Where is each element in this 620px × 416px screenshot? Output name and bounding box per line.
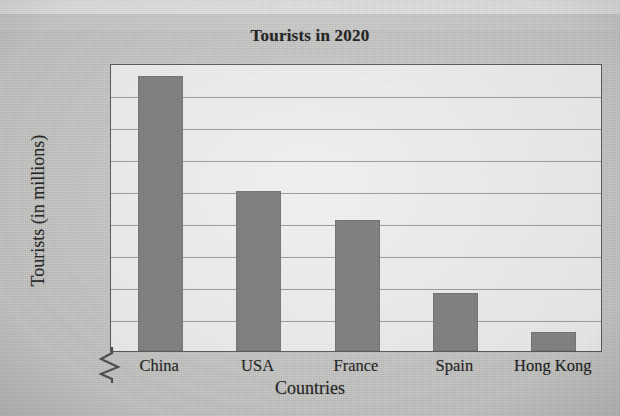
bar-usa [236,191,281,351]
bar-china [138,76,183,351]
gridline-100 [111,193,601,194]
gridline-130 [111,97,601,98]
bar-spain [433,293,478,351]
x-tick-usa: USA [241,356,274,376]
bar-hong-kong [531,332,576,351]
gridline-120 [111,129,601,130]
chart-title: Tourists in 2020 [0,26,620,46]
x-tick-hong-kong: Hong Kong [514,356,591,376]
x-axis-title: Countries [0,378,620,399]
plot-area [110,64,602,352]
y-axis-title: Tourists (in millions) [28,81,49,341]
x-tick-china: China [139,356,178,376]
gridline-110 [111,161,601,162]
x-tick-spain: Spain [436,356,474,376]
bar-france [335,220,380,351]
plot-wrapper: 5060708090100110120130140 [110,64,602,352]
axis-break-icon [98,347,124,383]
x-tick-france: France [334,356,379,376]
